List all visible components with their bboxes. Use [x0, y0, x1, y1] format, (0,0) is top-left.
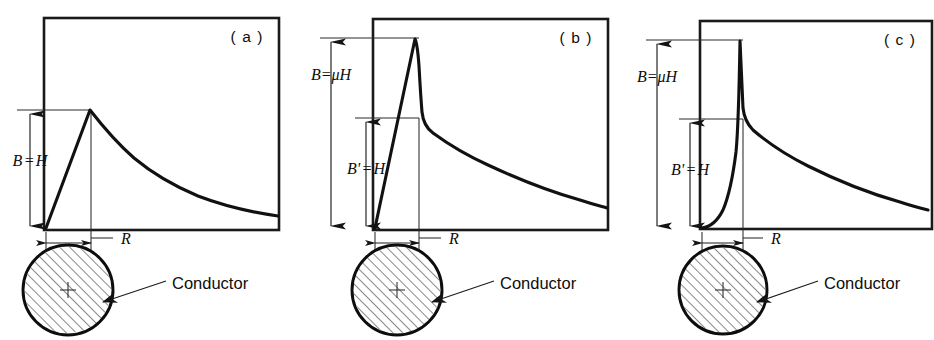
panel-b-label-Bprime-equals-H: B' = H: [347, 160, 387, 177]
panel-c-field-curve: [702, 41, 928, 228]
panel-a: ( a ) B = H R Conductor: [13, 18, 279, 335]
figure-magnetic-field-distribution: ( a ) B = H R Conductor ( b ): [0, 0, 934, 340]
panel-b-conductor-label: Conductor: [500, 274, 577, 292]
panel-a-label-R: R: [120, 230, 131, 247]
panel-a-conductor-label: Conductor: [172, 274, 249, 292]
panel-c-frame: [700, 21, 932, 229]
panel-b-label-R: R: [448, 230, 459, 247]
panel-b-field-curve: [375, 39, 607, 228]
panel-a-label-B-equals-H: B = H: [13, 152, 49, 169]
panel-a-label: ( a ): [230, 28, 263, 45]
panel-c-label-R: R: [770, 230, 781, 247]
panel-c-label-B-equals-muH: B=μH: [637, 68, 679, 86]
panel-a-frame: [44, 18, 279, 230]
panel-b-label-B-equals-muH: B=μH: [311, 66, 353, 84]
panel-c-label: ( c ): [884, 31, 916, 48]
panel-b-label: ( b ): [559, 29, 592, 46]
panel-b: ( b ) B=μH B' = H R Conductor: [311, 19, 608, 335]
panel-c-conductor-label: Conductor: [824, 274, 901, 292]
panel-c-label-Bprime-equals-H: B' = H: [671, 161, 711, 178]
panel-c: ( c ) B=μH B' = H R Conductor: [637, 21, 932, 334]
panel-a-field-curve: [46, 110, 278, 228]
